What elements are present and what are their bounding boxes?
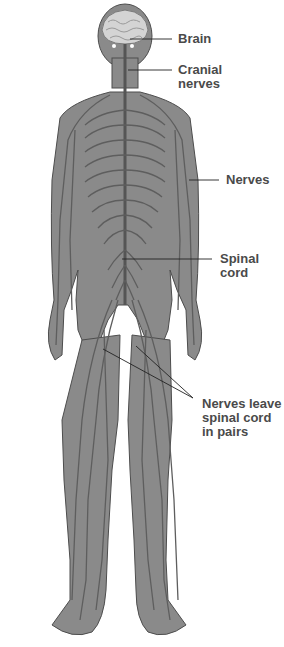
label-nerves-leave-pairs: Nerves leave spinal cord in pairs [202,397,282,439]
label-spinal-cord: Spinal cord [220,252,259,280]
nervous-system-figure [0,0,284,647]
label-nerves: Nerves [226,173,269,187]
label-brain: Brain [178,32,211,46]
label-cranial-nerves: Cranial nerves [178,63,222,91]
